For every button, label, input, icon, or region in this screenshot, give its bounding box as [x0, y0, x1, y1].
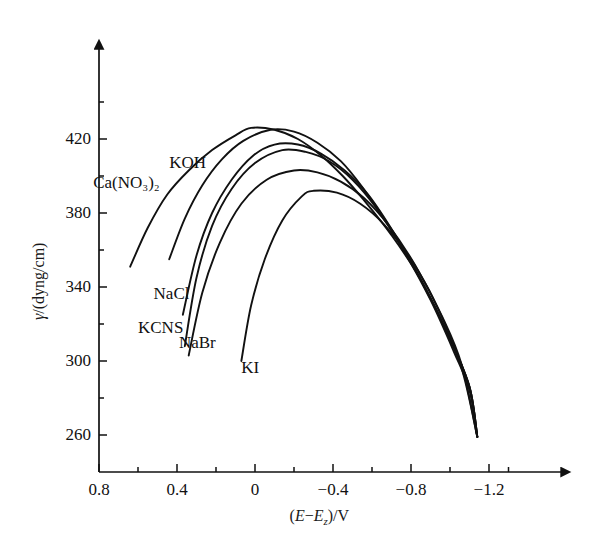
y-tick-label: 340: [47, 277, 91, 297]
y-tick-label: 260: [47, 425, 91, 445]
curve-label-ca-no3-2: Ca(NO₃)₂: [93, 173, 160, 193]
x-axis-title: (E−Ez)/V: [290, 507, 350, 527]
y-tick-label: 420: [47, 129, 91, 149]
curve-group: [130, 128, 477, 437]
curve-label-kcns: KCNS: [138, 318, 183, 338]
x-tick-label: 0.4: [166, 480, 187, 500]
curve-label-ki: KI: [241, 358, 259, 378]
y-tick-label: 300: [47, 351, 91, 371]
curve-ki: [241, 191, 477, 437]
y-axis-title-text: γ/(dyng/cm): [30, 243, 47, 320]
x-tick-label: 0.8: [88, 480, 109, 500]
x-tick-label: −1.2: [474, 480, 505, 500]
x-axis-title-text: (E−Ez)/V: [290, 507, 350, 524]
x-tick-label: −0.4: [318, 480, 349, 500]
y-tick-label: 380: [47, 203, 91, 223]
axis-lines: [99, 48, 562, 472]
curve-label-koh: KOH: [169, 153, 206, 173]
curve-nacl: [183, 143, 477, 437]
curve-koh: [169, 129, 477, 437]
curve-label-nabr: NaBr: [179, 333, 216, 353]
electrocapillary-curves-figure: 0.80.40−0.4−0.8−1.2420380340300260Ca(NO₃…: [0, 0, 594, 554]
curve-label-nacl: NaCl: [154, 284, 190, 304]
x-tick-label: 0: [251, 480, 260, 500]
y-axis-title: γ/(dyng/cm): [30, 243, 48, 320]
curve-kcns: [185, 149, 478, 437]
x-tick-label: −0.8: [396, 480, 427, 500]
